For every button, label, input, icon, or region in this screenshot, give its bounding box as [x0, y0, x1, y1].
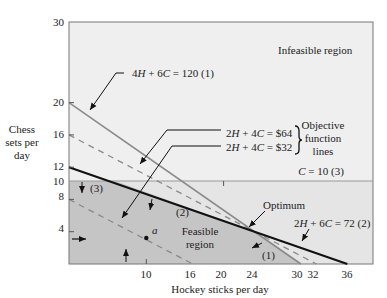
x-tick-32: 32: [308, 268, 319, 280]
svg-text:Feasible: Feasible: [182, 225, 219, 237]
svg-text:function: function: [305, 132, 342, 144]
constraint-2-tag: (2): [176, 206, 189, 219]
y-tick-12: 12: [53, 160, 64, 172]
constraint-3-tag: (3): [90, 182, 103, 195]
svg-text:sets per: sets per: [5, 136, 39, 148]
x-tick-20: 20: [216, 268, 228, 280]
objective-64-label: 2H + 4C = $64: [226, 127, 293, 139]
optimum-label: Optimum: [263, 199, 306, 211]
x-tick-30: 30: [292, 268, 304, 280]
x-tick-16: 16: [185, 268, 197, 280]
equation-1-label: 4H + 6C = 120 (1): [132, 67, 214, 80]
x-tick-labels: 10 16 20 24 30 32 36: [141, 268, 354, 280]
feasible-region-label: Feasible region: [182, 225, 219, 250]
y-tick-20: 20: [53, 96, 65, 108]
point-a-marker: [144, 236, 148, 240]
constraint-1-tag: (1): [262, 249, 275, 262]
y-tick-labels: 30 20 16 12 10 8 4: [53, 16, 65, 234]
svg-text:Chess: Chess: [9, 123, 35, 135]
y-tick-4: 4: [59, 222, 65, 234]
y-axis-label: Chess sets per day: [5, 123, 39, 161]
y-tick-30: 30: [53, 16, 65, 28]
point-a-label: a: [152, 224, 158, 236]
lp-chart: 30 20 16 12 10 8 4 10 16 20 24 30 32 36 …: [0, 0, 387, 298]
svg-text:day: day: [14, 149, 30, 161]
x-axis-label: Hockey sticks per day: [171, 283, 269, 295]
y-tick-8: 8: [59, 190, 65, 202]
y-tick-16: 16: [53, 128, 65, 140]
x-tick-10: 10: [141, 268, 153, 280]
svg-text:lines: lines: [313, 145, 334, 157]
equation-2-label: 2H + 6C = 72 (2): [294, 217, 371, 230]
svg-text:Objective: Objective: [302, 119, 345, 131]
equation-3-label: C = 10 (3): [298, 165, 344, 178]
y-tick-10: 10: [53, 175, 65, 187]
x-tick-24: 24: [247, 268, 259, 280]
svg-text:region: region: [186, 238, 215, 250]
x-tick-36: 36: [342, 268, 354, 280]
objective-32-label: 2H + 4C = $32: [226, 141, 292, 153]
infeasible-region-label: Infeasible region: [278, 44, 353, 56]
